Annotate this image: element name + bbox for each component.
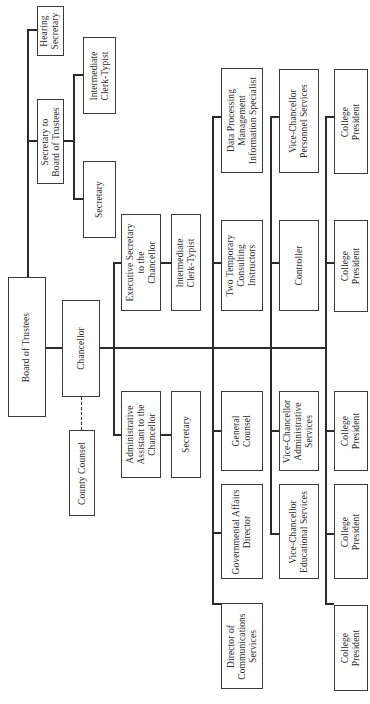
director-communications-connector [212, 603, 221, 605]
board-clerk-connector [73, 74, 83, 76]
node-label: College President [340, 103, 362, 139]
two-temporary-connector [212, 262, 221, 264]
col2-spine [212, 116, 214, 604]
node-executive-secretary: Executive Secretary to the Chancellor [121, 214, 161, 311]
node-label: College President [340, 630, 362, 666]
node-label: Executive Secretary to the Chancellor [125, 223, 158, 301]
node-vc-educational: Vice-Chancellor Educational Services [279, 484, 319, 579]
general-counsel-connector [212, 430, 221, 432]
node-label: Hearing Secretary [40, 13, 62, 50]
node-vc-administrative: Vice-Chancellor Administrative Services [279, 391, 319, 471]
node-general-counsel: General Counsel [221, 391, 263, 471]
college-president-1-connector [325, 116, 334, 118]
node-label: Controller [294, 245, 305, 285]
node-label: College President [340, 413, 362, 449]
node-label: Chancellor [76, 327, 87, 370]
node-board-secretary: Secretary [83, 161, 116, 238]
node-label: Administrative Assistant to the Chancell… [125, 404, 158, 464]
node-college-president-3: College President [334, 391, 368, 471]
node-college-president-4: College President [334, 484, 368, 579]
node-label: County Counsel [77, 442, 88, 505]
college-president-4-connector [325, 533, 334, 535]
board-spine [27, 29, 29, 277]
col4-spine [325, 116, 327, 604]
node-label: Secretary [181, 416, 192, 453]
node-label: Data Processing Management Information S… [226, 77, 259, 164]
node-label: General Counsel [231, 415, 253, 447]
board-chancellor-connector [45, 347, 62, 349]
sec-board-sub-spine [73, 74, 75, 199]
vc-personnel-connector [270, 116, 279, 118]
college-president-3-connector [325, 430, 334, 432]
vc-administrative-connector [270, 430, 279, 432]
node-label: Governmental Affairs Director [231, 489, 253, 574]
node-label: College President [340, 513, 362, 549]
node-two-temporary: Two Temporary Consulting Instructors [221, 220, 263, 311]
node-data-processing: Data Processing Management Information S… [221, 68, 263, 173]
node-label: Two Temporary Consulting Instructors [226, 235, 259, 297]
node-vc-personnel: Vice-Chancellor Personnel Services [279, 69, 319, 173]
node-label: Vice-Chancellor Personnel Services [288, 84, 310, 158]
node-label: Vice-Chancellor Educational Services [288, 491, 310, 573]
board-secretary-connector [73, 198, 83, 200]
exec-clerk-connector [161, 262, 171, 264]
node-secretary-to-board: Secretary to Board of Trustees [37, 99, 64, 184]
controller-connector [270, 262, 279, 264]
governmental-affairs-connector [212, 532, 221, 534]
node-label: College President [340, 248, 362, 284]
node-admin-secretary: Secretary [171, 391, 201, 478]
node-label: Intermediate Clerk-Typist [89, 51, 111, 100]
node-label: Vice-Chancellor Administrative Services [283, 399, 316, 463]
node-county-counsel: County Counsel [69, 430, 95, 516]
vc-educational-connector [270, 533, 279, 535]
node-admin-assistant: Administrative Assistant to the Chancell… [121, 391, 161, 478]
node-label: Secretary to Board of Trustees [40, 107, 62, 176]
node-hearing-secretary: Hearing Secretary [37, 6, 64, 56]
college-president-5-connector [325, 603, 334, 605]
node-controller: Controller [279, 220, 319, 311]
admin-sec-connector [161, 434, 171, 436]
county-counsel-dashed-line [81, 397, 82, 430]
node-college-president-5: College President [334, 605, 368, 691]
node-governmental-affairs: Governmental Affairs Director [221, 484, 263, 579]
node-label: Director of Communications Services [226, 613, 259, 679]
node-label: Secretary [94, 181, 105, 218]
node-college-president-2: College President [334, 220, 368, 312]
node-exec-intermediate-clerk: Intermediate Clerk-Typist [171, 214, 201, 311]
node-board-of-trustees: Board of Trustees [8, 277, 46, 417]
node-label: Intermediate Clerk-Typist [175, 238, 197, 287]
hearing-secretary-connector [27, 29, 37, 31]
node-chancellor: Chancellor [62, 300, 100, 397]
node-board-intermediate-clerk: Intermediate Clerk-Typist [83, 37, 116, 114]
node-college-president-1: College President [334, 69, 368, 174]
node-label: Board of Trustees [22, 312, 33, 381]
data-processing-connector [212, 116, 221, 118]
college-president-2-connector [325, 262, 334, 264]
node-director-communications: Director of Communications Services [221, 603, 263, 689]
secretary-to-board-connector [27, 140, 37, 142]
col1-spine [113, 262, 115, 435]
col3-spine [270, 116, 272, 534]
